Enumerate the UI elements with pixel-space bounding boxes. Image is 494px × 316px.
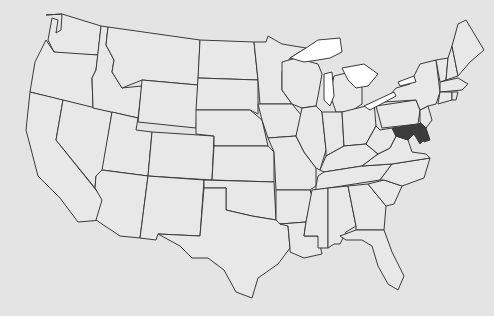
state-south-dakota[interactable]: [196, 78, 258, 114]
lake-michigan: [324, 72, 334, 106]
state-new-mexico[interactable]: [140, 176, 204, 240]
us-map: [0, 0, 494, 316]
state-wyoming[interactable]: [138, 80, 198, 128]
state-north-dakota[interactable]: [198, 40, 258, 80]
state-colorado[interactable]: [148, 132, 214, 180]
state-kansas[interactable]: [212, 146, 274, 182]
